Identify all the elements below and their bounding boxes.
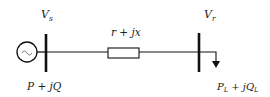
- load-arrow-icon: [199, 52, 220, 68]
- power-line-diagram: Vs r + jx Vr P + jQ PL + jQL: [0, 0, 270, 97]
- generator-icon: [17, 42, 37, 62]
- source-power-label: P + jQ: [26, 80, 62, 93]
- impedance-icon: [108, 48, 139, 58]
- load-power-label: PL + jQL: [216, 81, 258, 94]
- receiving-voltage-label: Vr: [204, 8, 216, 23]
- sending-voltage-label: Vs: [41, 8, 53, 23]
- impedance-label: r + jx: [111, 26, 141, 38]
